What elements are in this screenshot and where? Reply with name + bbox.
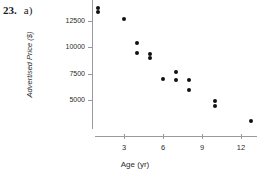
data-point (161, 77, 165, 81)
y-axis-label: Advertised Price ($) (25, 15, 34, 115)
data-point (213, 104, 217, 108)
data-point (148, 56, 152, 60)
data-point (122, 17, 126, 21)
x-tick-mark (202, 134, 203, 139)
x-tick-mark (163, 134, 164, 139)
y-axis-line (92, 0, 93, 129)
y-tick-mark (88, 74, 93, 75)
data-point (249, 119, 253, 123)
figure-container: 23.a) 500075001000012500 36912 Advertise… (0, 0, 267, 178)
data-point (135, 51, 139, 55)
y-tick-mark (88, 100, 93, 101)
data-point (187, 78, 191, 82)
x-tick-label: 12 (231, 143, 251, 152)
data-point (187, 88, 191, 92)
x-tick-mark (124, 134, 125, 139)
x-tick-mark (241, 134, 242, 139)
x-axis-label: Age (yr) (90, 160, 180, 169)
data-point (135, 41, 139, 45)
x-tick-label: 6 (153, 143, 173, 152)
data-point (174, 70, 178, 74)
data-point (213, 99, 217, 103)
x-axis-line (95, 136, 257, 137)
data-point (96, 10, 100, 14)
data-point (174, 78, 178, 82)
y-tick-mark (88, 21, 93, 22)
y-tick-label: 5000 (51, 96, 85, 104)
x-tick-label: 3 (114, 143, 134, 152)
y-tick-mark (88, 47, 93, 48)
y-tick-label: 7500 (51, 70, 85, 78)
scatter-plot: 500075001000012500 36912 Advertised Pric… (0, 0, 267, 178)
x-tick-label: 9 (192, 143, 212, 152)
y-tick-label: 12500 (51, 17, 85, 25)
y-tick-label: 10000 (51, 43, 85, 51)
